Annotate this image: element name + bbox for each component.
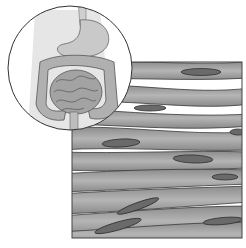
small-intestine (50, 70, 102, 114)
smooth-muscle-illustration (0, 0, 246, 248)
